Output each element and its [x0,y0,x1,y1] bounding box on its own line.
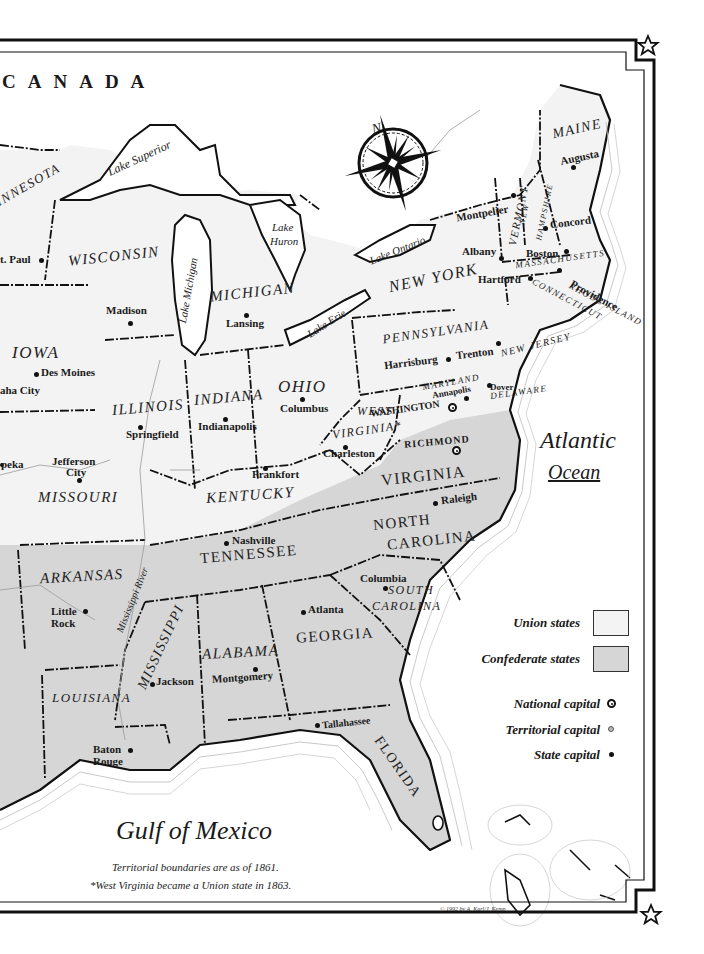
legend-label-territorial-capital: Territorial capital [506,723,601,736]
legend-swatch-union [593,610,629,636]
national-capital-icon [448,403,457,412]
state-label-south-carolina-1: SOUTH [388,584,434,596]
note-boundaries: Territorial boundaries are as of 1861. [112,862,279,873]
state-capital-icon [315,723,320,728]
state-capital-icon [128,321,133,326]
union-landmass [0,85,610,545]
ocean-label-gulf-of-mexico: Gulf of Mexico [116,818,272,844]
state-label-ohio: OHIO [278,378,327,395]
state-label-missouri: MISSOURI [38,490,118,505]
city-jefferson-city-2: City [66,467,86,478]
state-label-iowa: IOWA [12,344,59,361]
state-capital-icon [77,478,82,483]
bahamas-island [505,870,530,915]
lake-huron-label-2: Huron [270,236,298,247]
city-little-rock-1: Little [51,606,77,617]
star-ornament-top [639,36,658,54]
legend-label-state-capital: State capital [534,748,600,761]
state-capital-icon [433,501,438,506]
city-st-paul: t. Paul [0,254,31,265]
state-capital-icon [528,276,533,281]
state-capital-icon [496,341,501,346]
compass-rose-icon [344,114,443,213]
city-nashville: Nashville [232,535,275,546]
state-capital-icon [301,610,306,615]
state-capital-icon [83,609,88,614]
national-capital-icon [607,699,616,708]
state-capital-icon [224,541,229,546]
state-capital-icon [571,165,576,170]
state-capital-icon [464,396,469,401]
copyright-text: © 1992 by A. Karl/J. Kemp [440,906,506,912]
state-capital-icon [609,752,614,757]
city-springfield: Springfield [126,429,179,440]
ocean-label-atlantic-2: Ocean [548,462,600,482]
country-label-canada: CANADA [2,72,156,91]
city-omaha: aha City [0,385,40,396]
star-ornament-bottom [642,905,661,923]
city-little-rock-2: Rock [51,618,75,629]
city-des-moines: Des Moines [41,367,95,378]
city-indianapolis: Indianapolis [198,421,257,432]
state-label-louisiana: LOUISIANA [52,691,131,704]
city-lansing: Lansing [226,318,264,329]
lake-huron-label-1: Lake [272,222,293,233]
state-capital-icon [383,586,388,591]
city-baton-rouge-1: Baton [93,744,121,755]
state-capital-icon [39,258,44,263]
city-madison: Madison [106,305,147,316]
city-albany: Albany [462,246,496,257]
state-capital-icon [543,226,548,231]
city-topeka: peka [1,459,24,470]
city-columbia: Columbia [360,573,406,584]
state-capital-icon [128,748,133,753]
city-dover: Dover [490,383,514,392]
state-capital-icon [499,256,504,261]
legend-label-confederate: Confederate states [481,652,580,665]
state-capital-icon [557,268,562,273]
state-capital-icon [150,682,155,687]
state-capital-icon [34,372,39,377]
state-capital-icon [487,383,492,388]
territorial-capital-icon [608,726,614,732]
state-capital-icon [564,249,569,254]
city-baton-rouge-2: Rouge [93,756,123,767]
city-boston: Boston [526,248,558,259]
city-atlanta: Atlanta [308,604,343,615]
city-columbus: Columbus [280,403,328,414]
legend-label-national-capital: National capital [514,697,600,710]
ocean-label-atlantic-1: Atlantic [540,428,616,452]
city-frankfort: Frankfort [252,469,299,480]
legend-swatch-confederate [593,646,629,672]
state-capital-icon [511,193,516,198]
legend-label-union: Union states [513,616,580,629]
state-label-south-carolina-2: CAROLINA [372,600,441,612]
city-charleston: Charleston [323,448,375,459]
city-jackson: Jackson [156,676,194,687]
note-west-virginia: *West Virginia became a Union state in 1… [90,880,291,891]
state-capital-icon [446,357,451,362]
city-hartford: Hartford [478,274,521,285]
national-capital-icon [452,446,461,455]
